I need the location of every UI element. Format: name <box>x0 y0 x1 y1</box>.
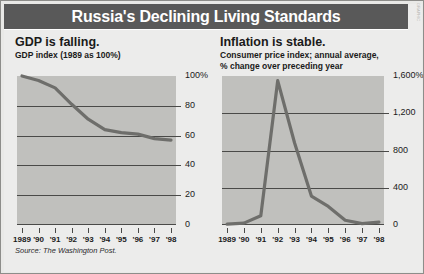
title-bar: Russia's Declining Living Standards <box>4 4 408 30</box>
y-tick-stub <box>384 151 389 152</box>
y-tick-stub <box>176 165 181 166</box>
chart-gdp-plot-area <box>17 76 176 225</box>
page-title: Russia's Declining Living Standards <box>4 8 408 26</box>
panel-gdp-subtitle-line-0: GDP index (1989 as 100%) <box>15 50 211 60</box>
x-tick <box>311 228 312 233</box>
panel-gdp-title: GDP is falling. <box>15 35 211 49</box>
x-axis-label: '98 <box>156 235 186 244</box>
x-tick <box>379 228 380 233</box>
x-tick <box>171 228 172 233</box>
chart-gdp: 020406080100%1989'90'91'92'93'94'95'96'9… <box>15 76 211 266</box>
y-axis-label: 800 <box>393 146 408 155</box>
y-tick-stub <box>384 188 389 189</box>
y-tick-stub <box>176 106 181 107</box>
y-axis-label: 1,600% <box>393 71 424 80</box>
x-tick <box>72 228 73 233</box>
x-tick <box>295 228 296 233</box>
x-tick <box>328 228 329 233</box>
panel-gdp: GDP is falling. GDP index (1989 as 100%)… <box>15 35 211 60</box>
x-tick <box>105 228 106 233</box>
y-tick-stub <box>176 136 181 137</box>
y-tick-stub <box>384 113 389 114</box>
x-tick <box>88 228 89 233</box>
y-axis-label: 40 <box>185 160 195 169</box>
x-tick <box>55 228 56 233</box>
y-axis-label: 0 <box>393 220 398 229</box>
x-tick <box>244 228 245 233</box>
x-tick <box>154 228 155 233</box>
x-tick <box>278 228 279 233</box>
series-line <box>222 76 384 225</box>
panel-inflation-title: Inflation is stable. <box>220 35 420 49</box>
y-axis-label: 60 <box>185 131 195 140</box>
x-axis-label: '98 <box>364 235 394 244</box>
x-tick <box>121 228 122 233</box>
x-tick <box>345 228 346 233</box>
x-tick <box>227 228 228 233</box>
y-axis-label: 20 <box>185 190 195 199</box>
y-tick-stub <box>176 195 181 196</box>
panel-inflation-subtitle-line-1: % change over preceding year <box>220 61 420 71</box>
infographic-root: Russia's Declining Living Standards GRAP… <box>0 0 424 274</box>
x-tick <box>22 228 23 233</box>
y-axis-label: 1,200 <box>393 108 416 117</box>
panel-inflation: Inflation is stable. Consumer price inde… <box>220 35 420 71</box>
panel-inflation-subtitle-line-0: Consumer price index; annual average, <box>220 50 420 60</box>
x-tick <box>138 228 139 233</box>
chart-inflation: 04008001,2001,600%1989'90'91'92'93'94'95… <box>220 76 420 266</box>
y-axis-label: 400 <box>393 183 408 192</box>
chart-inflation-plot-area <box>222 76 384 225</box>
y-axis-label: 0 <box>185 220 190 229</box>
y-axis-label: 80 <box>185 101 195 110</box>
source-note: Source: The Washington Post. <box>15 246 117 255</box>
x-tick <box>39 228 40 233</box>
y-axis-label: 100% <box>185 71 208 80</box>
x-tick <box>261 228 262 233</box>
x-tick <box>362 228 363 233</box>
series-line <box>17 76 176 225</box>
